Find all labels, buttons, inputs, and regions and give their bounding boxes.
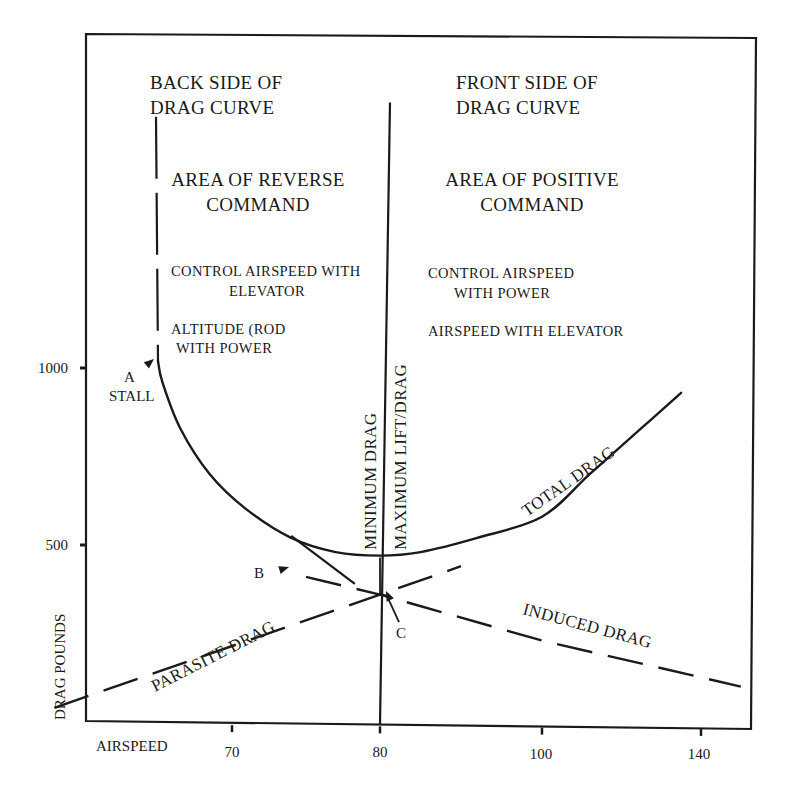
annotation-stall-label: STALL (109, 388, 154, 404)
front-side-heading-2: DRAG CURVE (456, 97, 580, 118)
front-note1-line2: WITH POWER (454, 285, 550, 301)
x-tick-label-100: 100 (530, 746, 553, 762)
induced-drag-line (306, 577, 741, 687)
back-side-heading-1: BACK SIDE OF (150, 72, 282, 93)
back-note2-line1: ALTITUDE (ROD (171, 321, 286, 338)
total-drag-label: TOTAL DRAG (518, 442, 618, 520)
x-tick-label-140: 140 (688, 746, 711, 762)
x-tick-label-70: 70 (225, 744, 240, 760)
stall-boundary-line (156, 117, 158, 361)
positive-command-2: COMMAND (480, 194, 583, 215)
pointer-b-arrowhead (278, 566, 289, 574)
annotation-b-label: B (254, 565, 264, 581)
chart-frame (86, 34, 756, 729)
minimum-drag-label: MINIMUM DRAG (361, 413, 380, 550)
x-axis-label: AIRSPEED (96, 738, 168, 754)
tangent-line-b (291, 536, 355, 584)
annotation-a-label: A (124, 369, 135, 385)
induced-drag-label: INDUCED DRAG (521, 600, 654, 653)
x-tick-label-80: 80 (373, 744, 388, 760)
reverse-command-2: COMMAND (206, 194, 309, 215)
pointer-c-arrowhead (386, 591, 394, 602)
back-note1-line2: ELEVATOR (229, 283, 305, 299)
max-lift-drag-label: MAXIMUM LIFT/DRAG (391, 364, 410, 550)
front-note2-line1: AIRSPEED WITH ELEVATOR (428, 323, 624, 339)
annotation-c-label: C (396, 625, 406, 641)
y-tick-label-1000: 1000 (38, 360, 68, 376)
y-axis-label: DRAG POUNDS (52, 614, 68, 720)
front-side-heading-1: FRONT SIDE OF (456, 72, 598, 93)
positive-command-1: AREA OF POSITIVE (445, 169, 619, 190)
back-note1-line1: CONTROL AIRSPEED WITH (171, 263, 361, 279)
parasite-drag-label: PARASITE DRAG (148, 617, 278, 696)
back-note2-line2: WITH POWER (176, 340, 272, 356)
y-tick-label-500: 500 (46, 537, 69, 553)
back-side-heading-2: DRAG CURVE (150, 97, 274, 118)
drag-curve-chart: BACK SIDE OF DRAG CURVE AREA OF REVERSE … (0, 0, 787, 799)
front-note1-line1: CONTROL AIRSPEED (428, 265, 574, 281)
pointer-a-arrowhead (144, 359, 154, 368)
pointer-c-line (388, 598, 399, 622)
reverse-command-1: AREA OF REVERSE (171, 169, 344, 190)
min-drag-vertical-line (380, 103, 390, 725)
